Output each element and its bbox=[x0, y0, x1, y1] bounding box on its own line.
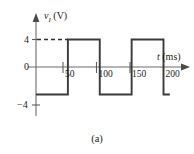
x-tick-label-50: 50 bbox=[65, 70, 75, 80]
x-tick-label-150: 150 bbox=[132, 70, 146, 80]
x-tick-label-200: 200 bbox=[166, 70, 180, 80]
x-axis-label-unit: (ms) bbox=[162, 51, 180, 62]
y-axis-label: vI (V) bbox=[44, 11, 67, 24]
x-axis-label-var: t bbox=[157, 51, 160, 62]
x-tick-label-100: 100 bbox=[99, 70, 113, 80]
waveform-figure: vI (V) t (ms) 4 0 −4 50 100 150 200 (a) bbox=[0, 0, 194, 154]
x-axis-arrow-icon bbox=[181, 64, 190, 71]
y-axis-arrow-icon bbox=[33, 13, 40, 22]
figure-caption: (a) bbox=[0, 133, 194, 144]
x-axis-label: t (ms) bbox=[157, 52, 181, 62]
y-tick-label-0: 0 bbox=[24, 62, 29, 72]
y-tick-label-4: 4 bbox=[24, 35, 29, 45]
y-axis-label-subscript: I bbox=[48, 16, 50, 24]
y-tick-label-minus-4: −4 bbox=[17, 100, 28, 110]
y-axis-label-unit: (V) bbox=[53, 10, 67, 21]
